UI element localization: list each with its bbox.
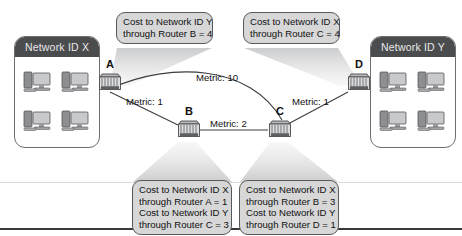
router-icon	[97, 72, 123, 92]
callout-line: Cost to Network ID X	[250, 16, 333, 28]
diagram-canvas: Network ID X	[0, 0, 462, 236]
metric-label-a-c: Metric: 10	[196, 72, 238, 83]
router-c: C	[267, 119, 293, 139]
callout-line: through Router A = 1	[139, 196, 225, 208]
callout-line: through Router D = 1	[246, 219, 332, 231]
callout-line: through Router B = 3	[246, 196, 332, 208]
network-x-title: Network ID X	[15, 37, 99, 57]
callout-router-c: Cost to Network ID X through Router B = …	[239, 180, 339, 235]
network-x-hosts	[15, 57, 99, 147]
computer-icon	[416, 109, 448, 135]
router-b: B	[176, 119, 202, 139]
callout-router-b: Cost to Network ID X through Router A = …	[132, 180, 232, 235]
computer-icon	[378, 109, 410, 135]
callout-router-a: Cost to Network ID Y through Router B = …	[116, 12, 213, 44]
metric-label-b-c: Metric: 2	[210, 118, 247, 129]
router-icon	[267, 119, 293, 139]
router-d-label: D	[346, 58, 372, 70]
network-y-hosts	[371, 57, 455, 147]
computer-icon	[60, 70, 92, 96]
callout-router-d: Cost to Network ID X through Router C = …	[243, 12, 340, 44]
callout-line: Cost to Network ID Y	[123, 16, 206, 28]
computer-icon	[378, 70, 410, 96]
router-a-label: A	[97, 58, 123, 70]
callout-tail-bottom-right	[240, 142, 338, 182]
metric-label-a-b: Metric: 1	[126, 96, 163, 107]
callout-line: Cost to Network ID Y	[246, 207, 332, 219]
callout-line: Cost to Network ID Y	[139, 207, 225, 219]
network-box-x: Network ID X	[14, 36, 100, 148]
callout-line: through Router C = 4	[250, 28, 333, 40]
network-box-y: Network ID Y	[370, 36, 456, 148]
computer-icon	[60, 109, 92, 135]
computer-icon	[22, 70, 54, 96]
router-b-label: B	[176, 105, 202, 117]
router-icon	[176, 119, 202, 139]
router-a: A	[97, 72, 123, 92]
router-d: D	[346, 72, 372, 92]
metric-label-c-d: Metric: 1	[292, 96, 329, 107]
callout-tail-top-right	[244, 48, 360, 86]
callout-tail-bottom-left	[133, 142, 232, 182]
callout-line: Cost to Network ID X	[139, 184, 225, 196]
router-icon	[346, 72, 372, 92]
computer-icon	[22, 109, 54, 135]
computer-icon	[416, 70, 448, 96]
callout-line: through Router C = 3	[139, 219, 225, 231]
callout-line: Cost to Network ID X	[246, 184, 332, 196]
callout-line: through Router B = 4	[123, 28, 206, 40]
network-y-title: Network ID Y	[371, 37, 455, 57]
router-c-label: C	[267, 105, 293, 117]
